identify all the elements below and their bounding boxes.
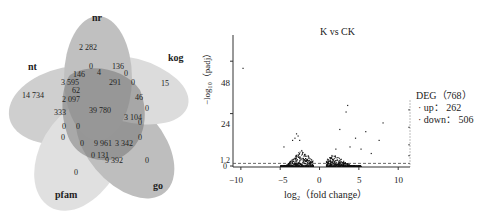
y-tick-24: 24 xyxy=(221,119,230,129)
y-tick-48: 48 xyxy=(221,78,230,88)
x-axis-label: log₂（fold change） xyxy=(284,186,367,201)
legend-down: · down： 506 xyxy=(418,111,474,126)
y-tick-0: 0 xyxy=(223,162,227,171)
chart-title: K vs CK xyxy=(320,26,355,37)
x-tick-m10: −10 xyxy=(229,175,243,185)
volcano-plot: K vs CK −log₁₀（padj） 48 24 1.2 0 −10 −5 … xyxy=(0,0,494,216)
x-tick-m5: −5 xyxy=(278,175,288,185)
y-axis-label: −log₁₀（padj） xyxy=(200,49,213,105)
x-tick-5: 5 xyxy=(357,175,362,185)
x-tick-10: 10 xyxy=(394,175,403,185)
x-tick-0: 0 xyxy=(317,175,322,185)
